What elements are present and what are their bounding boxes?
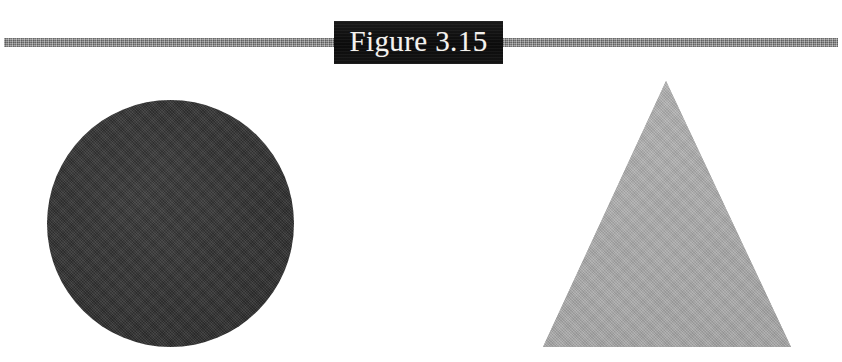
figure-title-text: Figure 3.15 [349,27,487,58]
figure-body [0,64,842,362]
circle-shape [47,100,294,347]
triangle-shape [543,81,791,347]
figure-title-banner: Figure 3.15 [334,21,503,64]
figure-page: Figure 3.15 [0,0,842,362]
